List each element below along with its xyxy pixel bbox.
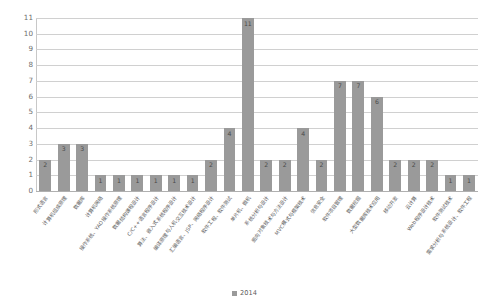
bars-container: 2331111112411224277622211 <box>36 18 478 191</box>
plot-area: 2331111112411224277622211 <box>36 18 478 191</box>
x-axis-category-label: 数据库 <box>73 195 87 211</box>
x-axis-category-label: 数据挖掘 <box>346 195 363 215</box>
x-label-slot: 汇编语言、JSP、网络程序设计 <box>202 193 220 281</box>
bar-slot: 1 <box>91 18 109 191</box>
bar[interactable]: 1 <box>150 175 162 191</box>
y-axis-tick-label: 0 <box>3 187 33 194</box>
x-label-slot: 软件工程、软件测试 <box>220 193 238 281</box>
bar-slot: 1 <box>128 18 146 191</box>
bar[interactable]: 7 <box>334 81 346 191</box>
legend-label: 2014 <box>240 290 257 297</box>
bar-slot: 7 <box>349 18 367 191</box>
x-label-slot: 数据挖掘 <box>349 193 367 281</box>
bar[interactable]: 2 <box>389 160 401 191</box>
y-axis-tick-label: 10 <box>3 30 33 37</box>
bar[interactable]: 6 <box>371 97 383 191</box>
bar-value-label: 1 <box>154 175 158 184</box>
bar-value-label: 4 <box>228 128 232 137</box>
bar-value-label: 1 <box>117 175 121 184</box>
bar[interactable]: 7 <box>352 81 364 191</box>
y-axis-tick-label: 9 <box>3 46 33 53</box>
bar-slot: 2 <box>404 18 422 191</box>
y-axis-tick-label: 2 <box>3 156 33 163</box>
bar[interactable]: 2 <box>39 160 51 191</box>
bar-slot: 11 <box>239 18 257 191</box>
bar-slot: 7 <box>331 18 349 191</box>
x-label-slot: 云计算 <box>404 193 422 281</box>
bar[interactable]: 3 <box>58 144 70 191</box>
bar[interactable]: 1 <box>95 175 107 191</box>
bar-value-label: 1 <box>191 175 195 184</box>
bar-slot: 2 <box>312 18 330 191</box>
bar-slot: 3 <box>73 18 91 191</box>
bar[interactable]: 2 <box>426 160 438 191</box>
bar[interactable]: 1 <box>113 175 125 191</box>
x-axis-category-label: 形式语言 <box>33 195 50 215</box>
bar-value-label: 2 <box>209 160 213 169</box>
y-axis-tick-label: 3 <box>3 140 33 147</box>
bar-value-label: 3 <box>62 144 66 153</box>
x-axis-category-labels: 形式语言计算机组成原理数据库计算机网络操作系统、YAO操作系统原理数据结构课程设… <box>36 193 478 281</box>
gridline <box>36 191 478 192</box>
bar-slot: 1 <box>183 18 201 191</box>
legend-color-swatch <box>232 291 237 296</box>
x-label-slot: 移动开发 <box>386 193 404 281</box>
bar-chart: 01234567891011 2331111112411224277622211… <box>0 0 489 303</box>
bar-value-label: 4 <box>301 128 305 137</box>
bar[interactable]: 1 <box>131 175 143 191</box>
bar[interactable]: 1 <box>445 175 457 191</box>
x-label-slot: 编译原理与人机交互技术设计 <box>183 193 201 281</box>
y-axis-tick-label: 6 <box>3 93 33 100</box>
bar-slot: 1 <box>441 18 459 191</box>
x-axis-category-label: 信息安全 <box>309 195 326 215</box>
bar-value-label: 11 <box>244 18 252 27</box>
y-axis-tick-label: 4 <box>3 124 33 131</box>
x-label-slot: 操作系统、YAO操作系统原理 <box>110 193 128 281</box>
bar[interactable]: 3 <box>76 144 88 191</box>
bar-value-label: 2 <box>283 160 287 169</box>
bar[interactable]: 4 <box>297 128 309 191</box>
x-label-slot: 软件项目管理 <box>331 193 349 281</box>
bar-value-label: 1 <box>172 175 176 184</box>
bar-value-label: 2 <box>264 160 268 169</box>
bar[interactable]: 2 <box>279 160 291 191</box>
bar-value-label: 2 <box>43 160 47 169</box>
bar-slot: 2 <box>257 18 275 191</box>
bar-value-label: 7 <box>356 81 360 90</box>
x-axis-category-label: 移动开发 <box>383 195 400 215</box>
bar-slot: 3 <box>54 18 72 191</box>
bar-slot: 4 <box>220 18 238 191</box>
bar-value-label: 3 <box>80 144 84 153</box>
bar-value-label: 2 <box>412 160 416 169</box>
bar-value-label: 1 <box>467 175 471 184</box>
y-axis-tick-label: 5 <box>3 109 33 116</box>
bar-slot: 2 <box>423 18 441 191</box>
x-label-slot: 计算机组成原理 <box>54 193 72 281</box>
bar-slot: 2 <box>386 18 404 191</box>
chart-legend: 2014 <box>0 290 489 297</box>
bar[interactable]: 2 <box>316 160 328 191</box>
bar[interactable]: 4 <box>224 128 236 191</box>
bar[interactable]: 2 <box>408 160 420 191</box>
bar-slot: 2 <box>202 18 220 191</box>
bar[interactable]: 1 <box>187 175 199 191</box>
bar-slot: 4 <box>294 18 312 191</box>
bar[interactable]: 1 <box>463 175 475 191</box>
bar-value-label: 6 <box>375 97 379 106</box>
bar[interactable]: 2 <box>205 160 217 191</box>
bar-value-label: 2 <box>430 160 434 169</box>
bar[interactable]: 2 <box>260 160 272 191</box>
y-axis-tick-label: 8 <box>3 62 33 69</box>
bar[interactable]: 11 <box>242 18 254 191</box>
x-axis-category-label: 云计算 <box>404 195 418 211</box>
x-label-slot: 需求分析与系统设计、软件工程 <box>460 193 478 281</box>
bar-value-label: 2 <box>320 160 324 169</box>
x-label-slot: 面向对象技术与方法设计 <box>275 193 293 281</box>
y-axis-tick-label: 1 <box>3 172 33 179</box>
bar[interactable]: 1 <box>168 175 180 191</box>
bar-slot: 2 <box>275 18 293 191</box>
bar-value-label: 2 <box>393 160 397 169</box>
x-label-slot: 形式语言 <box>36 193 54 281</box>
bar-value-label: 1 <box>99 175 103 184</box>
bar-slot: 1 <box>147 18 165 191</box>
